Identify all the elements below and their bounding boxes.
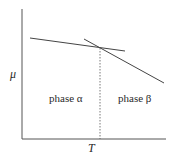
phase-beta-label: phase β bbox=[118, 92, 152, 104]
y-axis-label: μ bbox=[9, 67, 16, 81]
beta-potential-line bbox=[84, 39, 164, 83]
phase-diagram: μ T phase α phase β bbox=[0, 0, 174, 163]
phase-alpha-label: phase α bbox=[49, 92, 83, 104]
alpha-potential-line bbox=[30, 38, 125, 51]
x-axis-label: T bbox=[88, 141, 96, 155]
